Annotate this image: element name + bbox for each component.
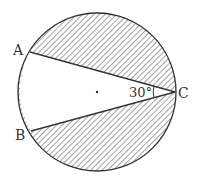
label-C: C [178,85,189,101]
angle-label: 30° [129,85,152,100]
label-A: A [12,42,24,58]
shaded-region [0,0,199,185]
diagram-canvas: A B C 30° [0,0,199,185]
center-point [96,91,98,93]
label-B: B [15,127,25,143]
